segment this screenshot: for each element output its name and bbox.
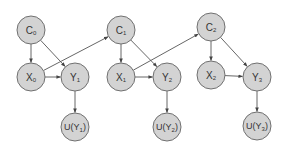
edge-c2-to-y3 — [220, 37, 247, 66]
bayesian-network-diagram: C0X0Y1U(Y1)C1X1Y2U(Y2)C2X2Y3U(Y3) — [0, 0, 288, 149]
node-label: U(Y2) — [156, 122, 178, 133]
node-label: U(Y1) — [64, 122, 86, 133]
edge-c0-to-y1 — [41, 40, 66, 66]
node-y3: Y3 — [243, 63, 271, 91]
node-y2: Y2 — [153, 63, 181, 91]
node-x2: X2 — [197, 61, 225, 89]
node-c0: C0 — [17, 16, 45, 44]
node-c2: C2 — [197, 13, 225, 41]
edge-x2-to-y3 — [225, 76, 243, 77]
node-uy1: U(Y1) — [61, 113, 89, 141]
node-x0: X0 — [17, 63, 45, 91]
node-c1: C1 — [107, 16, 135, 44]
node-uy3: U(Y3) — [243, 112, 271, 140]
edge-c1-to-y2 — [131, 40, 157, 67]
node-x1: X1 — [107, 63, 135, 91]
node-y1: Y1 — [61, 63, 89, 91]
node-uy2: U(Y2) — [153, 113, 181, 141]
node-label: U(Y3) — [246, 121, 268, 132]
